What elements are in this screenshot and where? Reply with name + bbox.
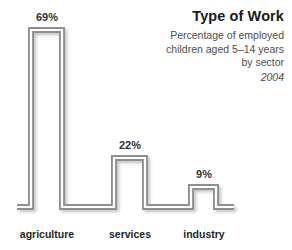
- value-label-agriculture: 69%: [21, 11, 73, 23]
- bar-profile-group: [17, 30, 234, 207]
- category-label-industry: industry: [166, 228, 242, 240]
- category-label-services: services: [91, 228, 169, 240]
- category-label-agriculture: agriculture: [6, 228, 88, 240]
- bar-profile-inner-highlight: [17, 30, 234, 207]
- bar-profile-outer-stroke: [17, 30, 234, 207]
- chart-plot-area: [0, 0, 292, 250]
- value-label-services: 22%: [104, 139, 156, 151]
- chart-canvas: Type of Work Percentage of employed chil…: [0, 0, 292, 250]
- value-label-industry: 9%: [178, 168, 230, 180]
- bar-outline-graphic: [0, 0, 292, 250]
